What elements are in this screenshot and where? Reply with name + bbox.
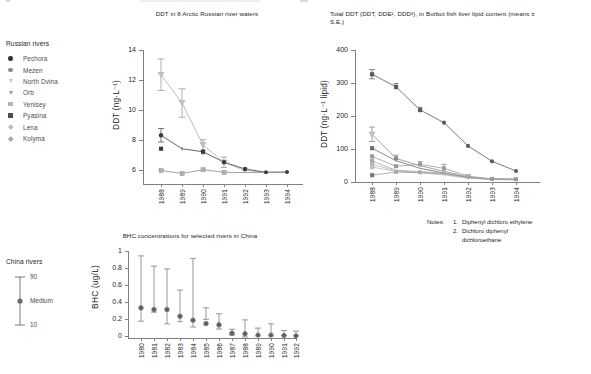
chart-bhc-china: BHC concentrations for selected rivers i… bbox=[90, 232, 290, 240]
x-tick-label: 1980 bbox=[138, 343, 145, 358]
x-tick-label: 1986 bbox=[216, 343, 223, 358]
circle-marker-icon bbox=[6, 66, 15, 75]
diamond-marker-icon bbox=[6, 134, 15, 143]
x-tick-label: 1989 bbox=[393, 187, 400, 202]
figure-page: Russian rivers Pechora Mezen North Dvina bbox=[0, 0, 591, 374]
diamond-marker-icon bbox=[6, 123, 15, 132]
legend-label: Orb bbox=[23, 89, 34, 96]
x-tick-label: 1991 bbox=[281, 343, 288, 358]
x-tick-label: 1989 bbox=[179, 189, 186, 204]
legend-item-yenisey[interactable]: Yenisey bbox=[6, 99, 106, 110]
x-tick-label: 1989 bbox=[255, 343, 262, 358]
note-text: Diphenyl dichloro ethylene bbox=[462, 218, 534, 226]
top-clipped-rule bbox=[0, 0, 591, 2]
chart2-plot: DDT (ng·L⁻¹ lipid) 400 300 200 100 0 bbox=[320, 40, 550, 205]
legend-item-kolyma[interactable]: Kolyma bbox=[6, 133, 106, 144]
notes-label: Notes: bbox=[427, 218, 453, 226]
legend-item-pechora[interactable]: Pechora bbox=[6, 53, 106, 64]
chart3-plot: BHC (ug/L) 1 0.8 0.6 0.4 0.2 0 bbox=[88, 243, 303, 374]
square-marker-icon bbox=[6, 111, 15, 120]
x-tick-label: 1991 bbox=[441, 187, 448, 202]
legend-item-lena[interactable]: Lena bbox=[6, 121, 106, 132]
legend-label: Pechora bbox=[23, 55, 48, 62]
china-legend-lower: 10 bbox=[30, 321, 37, 328]
russian-rivers-legend: Russian rivers Pechora Mezen North Dvina bbox=[6, 40, 106, 144]
notes-block: Notes: 1. Diphenyl dichloro ethylene 2. … bbox=[427, 218, 587, 244]
x-tick-label: 1985 bbox=[203, 343, 210, 358]
russian-legend-items: Pechora Mezen North Dvina Orb bbox=[6, 53, 106, 144]
x-tick-label: 1993 bbox=[263, 189, 270, 204]
legend-item-north-dvina[interactable]: North Dvina bbox=[6, 76, 106, 87]
chart2-series-canvas bbox=[320, 40, 550, 205]
legend-item-orb[interactable]: Orb bbox=[6, 87, 106, 98]
x-tick-label: 1988 bbox=[158, 189, 165, 204]
legend-label: North Dvina bbox=[23, 78, 58, 85]
legend-label: Yenisey bbox=[23, 101, 46, 108]
x-tick-label: 1991 bbox=[221, 189, 228, 204]
note-number: 2. bbox=[453, 227, 462, 244]
russian-legend-title: Russian rivers bbox=[6, 40, 106, 47]
x-tick-label: 1990 bbox=[268, 343, 275, 358]
legend-label: Lena bbox=[23, 124, 38, 131]
chart1-title: DDT in 8 Arctic Russian river waters bbox=[112, 10, 302, 18]
x-tick-label: 1988 bbox=[242, 343, 249, 358]
legend-label: Kolyma bbox=[23, 135, 45, 142]
chart-ddt-russian-rivers: DDT in 8 Arctic Russian river waters bbox=[112, 10, 312, 18]
x-tick-label: 1981 bbox=[151, 343, 158, 358]
x-tick-label: 1988 bbox=[369, 187, 376, 202]
x-tick-label: 1993 bbox=[489, 187, 496, 202]
notes-row: Notes: 1. Diphenyl dichloro ethylene bbox=[427, 218, 587, 226]
china-rivers-legend: China rivers 90 Medium 10 bbox=[6, 258, 101, 331]
legend-item-mezen[interactable]: Mezen bbox=[6, 64, 106, 75]
chart1-plot: DDT (ng·L⁻¹) 14 12 10 8 6 bbox=[112, 40, 312, 205]
chart-total-ddt-burbot: Total DDT (DDT, DDE¹, DDD²), in Burbot f… bbox=[330, 10, 545, 26]
china-legend-title: China rivers bbox=[6, 258, 101, 265]
x-tick-label: 1992 bbox=[242, 189, 249, 204]
x-tick-label: 1990 bbox=[417, 187, 424, 202]
x-tick-label: 1984 bbox=[190, 343, 197, 358]
note-text: Dichloro diphenyl dichloroethane bbox=[462, 227, 534, 244]
x-tick-label: 1994 bbox=[513, 187, 520, 202]
notes-row: 2. Dichloro diphenyl dichloroethane bbox=[427, 227, 587, 244]
x-tick-label: 1992 bbox=[465, 187, 472, 202]
legend-label: Pyasina bbox=[23, 112, 46, 119]
legend-item-pyasina[interactable]: Pyasina bbox=[6, 110, 106, 121]
x-tick-label: 1982 bbox=[164, 343, 171, 358]
x-tick-label: 1994 bbox=[284, 189, 291, 204]
x-tick-label: 1990 bbox=[200, 189, 207, 204]
chart2-title: Total DDT (DDT, DDE¹, DDD²), in Burbot f… bbox=[330, 10, 545, 26]
china-legend-errorbar: 90 Medium 10 bbox=[6, 273, 101, 331]
circle-marker-icon bbox=[6, 54, 15, 63]
china-legend-middle: Medium bbox=[30, 297, 53, 304]
chart1-series-canvas bbox=[112, 40, 312, 205]
legend-label: Mezen bbox=[23, 67, 43, 74]
triangle-down-marker-icon bbox=[6, 77, 15, 86]
chart3-title: BHC concentrations for selected rivers i… bbox=[90, 232, 290, 240]
x-tick-label: 1992 bbox=[293, 343, 300, 358]
triangle-down-marker-icon bbox=[6, 88, 15, 97]
x-tick-label: 1987 bbox=[229, 343, 236, 358]
x-tick-label: 1983 bbox=[177, 343, 184, 358]
note-number: 1. bbox=[453, 218, 462, 226]
china-legend-upper: 90 bbox=[30, 273, 37, 280]
square-marker-icon bbox=[6, 100, 15, 109]
